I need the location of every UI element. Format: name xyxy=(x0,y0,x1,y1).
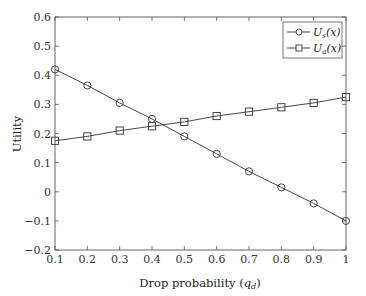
x-axis-label: Drop probability (qd) xyxy=(139,276,260,291)
x-tick-label: 1 xyxy=(343,253,350,266)
x-tick-label: 0.3 xyxy=(111,253,129,266)
y-tick-label: 0.4 xyxy=(34,69,52,82)
series-layer xyxy=(51,66,349,225)
utility-chart: 0.60.50.40.30.20.10−0.1−0.2 0.10.20.30.4… xyxy=(0,0,366,296)
y-axis-label: Utility xyxy=(10,115,24,152)
series-square xyxy=(51,93,349,144)
x-tick-label: 0.7 xyxy=(240,253,258,266)
x-tick-label: 0.8 xyxy=(273,253,291,266)
series-line xyxy=(55,97,346,141)
circle-marker-icon xyxy=(296,29,302,35)
y-tick-label: 0.5 xyxy=(34,40,52,53)
y-tick-label: 0 xyxy=(44,186,51,199)
y-tick-label: 0.6 xyxy=(34,11,52,24)
y-tick-label: 0.2 xyxy=(34,128,52,141)
x-tick-label: 0.5 xyxy=(176,253,194,266)
series-circle xyxy=(51,66,349,225)
x-tick-label: 0.4 xyxy=(143,253,161,266)
x-tick-label: 0.2 xyxy=(79,253,97,266)
svg-text:Ua(x): Ua(x) xyxy=(313,42,341,56)
y-tick-label: −0.1 xyxy=(24,215,51,228)
y-tick-label: 0.3 xyxy=(34,98,52,111)
y-tick-label: 0.1 xyxy=(34,157,52,170)
legend: Us(x) Ua(x) xyxy=(283,22,342,58)
x-tick-label: 0.6 xyxy=(208,253,226,266)
svg-text:Us(x): Us(x) xyxy=(313,26,341,40)
x-tick-label: 0.1 xyxy=(46,253,64,266)
series-line xyxy=(55,69,346,221)
x-tick-label: 0.9 xyxy=(305,253,323,266)
square-marker-icon xyxy=(296,45,302,51)
